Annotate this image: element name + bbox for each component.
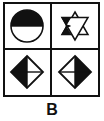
- hexagram-star-icon: [56, 7, 94, 45]
- half-filled-circle-icon: [8, 7, 46, 45]
- panel-caption-label: B: [0, 98, 104, 121]
- grid-cell-top-right: [52, 4, 99, 50]
- grid-cell-bottom-right: [52, 50, 99, 96]
- quartered-diamond-top-right-icon: [56, 53, 94, 91]
- grid-cell-bottom-left: [5, 50, 52, 96]
- quartered-diamond-left-bottom-icon: [8, 53, 46, 91]
- grid-cell-top-left: [5, 4, 52, 50]
- shape-grid: [3, 2, 100, 97]
- figure-panel-b: B: [0, 0, 104, 121]
